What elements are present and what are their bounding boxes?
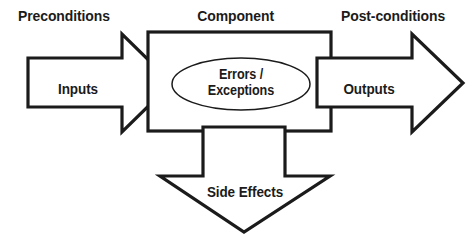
- side-effects-label: Side Effects: [203, 184, 288, 200]
- errors-line-2: Exceptions: [201, 83, 282, 99]
- component-interface-diagram: Preconditions Component Post-conditions …: [0, 0, 475, 242]
- preconditions-label: Preconditions: [18, 8, 110, 25]
- inputs-label: Inputs: [53, 81, 103, 97]
- post-conditions-label: Post-conditions: [341, 8, 445, 25]
- errors-exceptions-label: Errors / Exceptions: [201, 67, 282, 98]
- outputs-label: Outputs: [339, 81, 398, 97]
- side-effects-arrow: [160, 127, 330, 232]
- component-label: Component: [197, 8, 274, 25]
- errors-line-1: Errors /: [201, 67, 282, 83]
- diagram-canvas: [0, 0, 475, 242]
